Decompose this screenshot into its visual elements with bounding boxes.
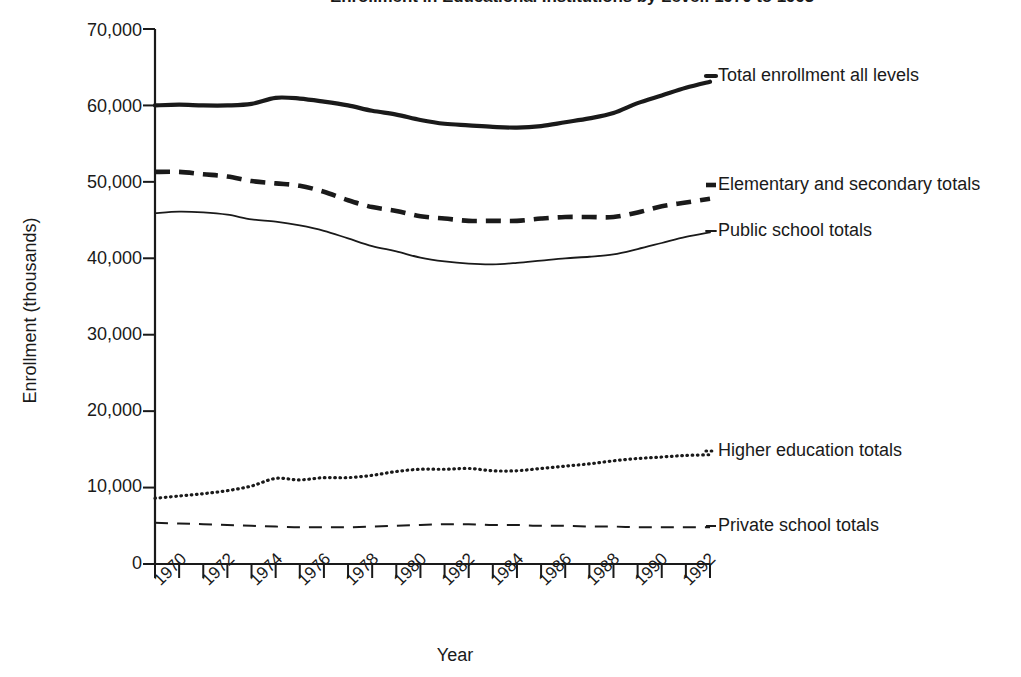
series-label-total: Total enrollment all levels — [718, 65, 919, 86]
series-line — [155, 172, 710, 221]
series-line — [155, 523, 710, 528]
series-label-elemsec: Elementary and secondary totals — [718, 174, 980, 195]
series-line — [155, 455, 710, 499]
series-label-higher: Higher education totals — [718, 440, 902, 461]
axis-tick-marks — [143, 29, 710, 578]
series-label-leaders — [706, 76, 716, 526]
plot-canvas — [0, 0, 1021, 677]
series-line — [155, 82, 710, 128]
series-line — [155, 212, 710, 265]
series-label-public: Public school totals — [718, 220, 872, 241]
series-label-private: Private school totals — [718, 515, 879, 536]
chart-figure: Enrollment in Educational Institutions b… — [0, 0, 1021, 677]
series-paths — [155, 82, 710, 528]
